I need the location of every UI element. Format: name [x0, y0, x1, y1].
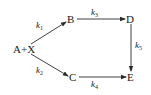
rate-label-k2: k2: [36, 65, 43, 76]
node-e: E: [127, 71, 134, 83]
node-c: C: [69, 71, 76, 83]
rate-label-k5: k5: [135, 40, 142, 51]
node-d: D: [126, 13, 134, 25]
reaction-diagram: A+X B C D E k1 k2 k3 k4 k5: [0, 0, 151, 95]
rate-label-k4: k4: [91, 79, 98, 90]
node-a-plus-x: A+X: [13, 43, 35, 55]
rate-label-k1: k1: [36, 20, 43, 31]
node-b: B: [67, 13, 74, 25]
rate-label-k3: k3: [91, 7, 98, 18]
